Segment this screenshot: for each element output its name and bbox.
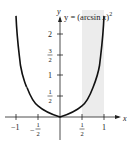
y-tick-2: 2 [48,30,52,39]
x-tick-neg-half-minus: − [30,126,35,135]
y-tick-half-num: 1 [49,88,52,95]
y-axis-arrow-icon [58,16,62,22]
y-tick-3half-den: 2 [49,56,52,63]
x-axis-label: x [122,114,127,123]
x-tick-neg-half-den: 2 [37,130,40,137]
x-tick-half-den: 2 [81,130,84,137]
x-tick-1: 1 [102,123,106,132]
x-tick-half-num: 1 [81,121,84,128]
y-tick-half-den: 2 [49,97,52,104]
shaded-region [82,10,104,117]
x-tick-neg-half-num: 1 [37,121,40,128]
y-axis-label: y [56,7,61,16]
plot: −1 − 1 2 1 2 1 1 2 1 3 2 2 x y y = (arcs… [0,0,132,145]
x-axis-arrow-icon [115,115,121,119]
y-tick-1: 1 [48,71,52,80]
y-tick-3half-num: 3 [49,47,52,54]
x-tick-neg1: −1 [11,123,20,132]
function-title: y = (arcsin x)2 [64,11,112,22]
